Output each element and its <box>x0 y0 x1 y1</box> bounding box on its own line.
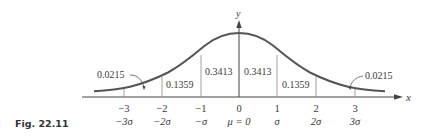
tick-label-plus1: 1 <box>274 103 279 114</box>
area-label-plus1-plus2: 0.1359 <box>282 79 310 90</box>
normal-distribution-diagram: x y 0.0215 0.1359 0.3413 0.3413 0.1359 0… <box>0 0 429 136</box>
y-axis-arrow-icon <box>236 20 241 28</box>
sigma-label-minus2: −2σ <box>153 116 171 127</box>
tick-label-minus3: −3 <box>118 103 129 114</box>
figure-caption: Fig. 22.11 <box>15 118 69 129</box>
sigma-label-plus2: 2σ <box>311 116 322 127</box>
area-label-0-plus1: 0.3413 <box>244 66 272 77</box>
tick-label-minus2: −2 <box>156 103 167 114</box>
sigma-label-plus3: 3σ <box>349 116 361 127</box>
y-axis-label: y <box>235 8 241 19</box>
left-tail-pointer-icon <box>142 86 145 90</box>
area-label-minus1-0: 0.3413 <box>205 66 233 77</box>
area-label-minus2-minus1: 0.1359 <box>166 79 194 90</box>
sigma-label-plus1: σ <box>274 116 280 127</box>
tick-label-minus1: −1 <box>195 103 206 114</box>
right-tail-leader <box>350 76 363 87</box>
tick-label-plus2: 2 <box>313 103 318 114</box>
area-label-left-tail: 0.0215 <box>97 69 125 80</box>
sigma-label-minus3: −3σ <box>115 116 133 127</box>
tick-label-0: 0 <box>236 103 241 114</box>
x-axis-label: x <box>405 91 411 103</box>
sigma-label-minus1: −σ <box>195 116 208 127</box>
area-label-right-tail: 0.0215 <box>365 70 393 81</box>
x-axis-arrow-icon <box>394 94 403 99</box>
tick-label-plus3: 3 <box>352 103 357 114</box>
sigma-label-mu: μ = 0 <box>227 116 252 127</box>
